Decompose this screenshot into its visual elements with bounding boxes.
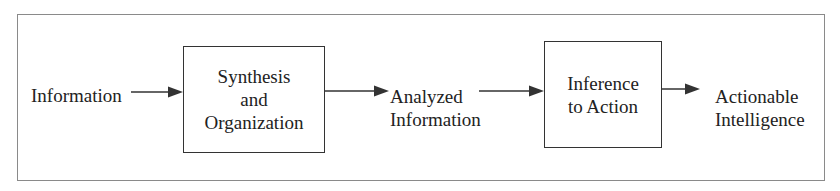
edge-inference-to-output: [662, 84, 700, 95]
arrowhead-icon: [529, 86, 544, 97]
edge-information-to-synthesis: [131, 87, 183, 98]
edge-analyzed-to-inference: [479, 86, 544, 97]
edge-synthesis-to-analyzed: [325, 86, 389, 97]
arrowhead-icon: [685, 84, 700, 95]
arrowhead-icon: [168, 87, 183, 98]
edges-layer: [0, 0, 840, 191]
arrowhead-icon: [374, 86, 389, 97]
